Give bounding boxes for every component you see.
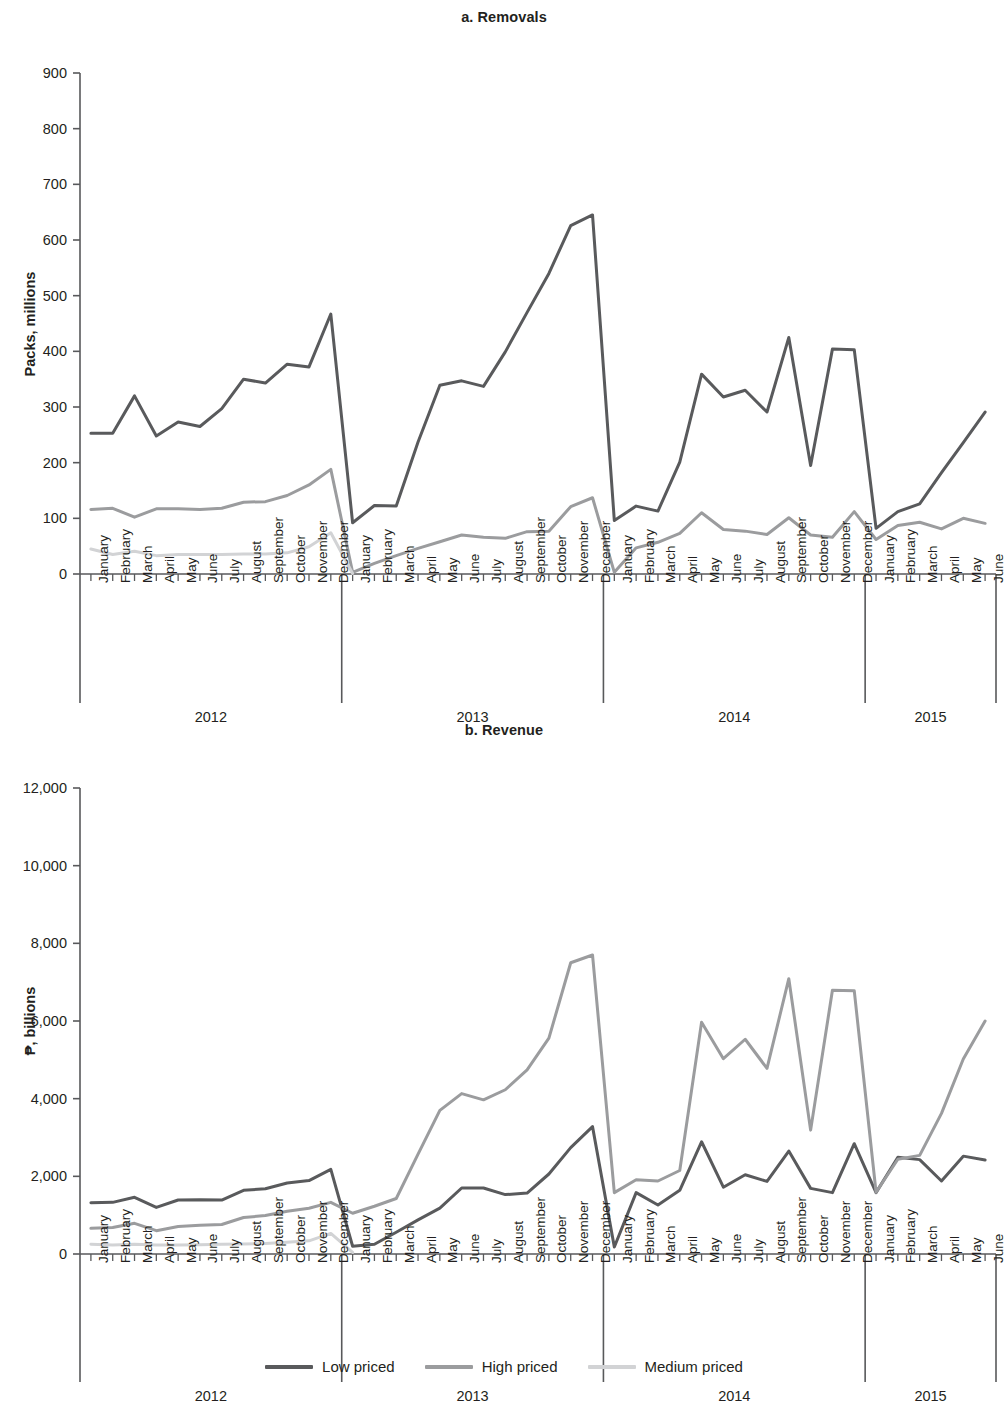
- x-axis-month-label: September: [794, 1197, 809, 1263]
- x-axis-month-label: November: [838, 1201, 853, 1263]
- x-axis-month-label: January: [620, 1215, 635, 1263]
- chart-panel-removals: a. Removals 0100200300400500600700800900…: [0, 0, 1008, 700]
- x-axis-month-label: March: [663, 545, 678, 583]
- x-axis-month-label: October: [554, 1215, 569, 1263]
- legend-swatch-medium-priced: [588, 1365, 636, 1369]
- x-axis-month-label: August: [511, 1221, 526, 1263]
- chart-a-title: a. Removals: [0, 0, 1008, 25]
- x-axis-month-label: November: [576, 521, 591, 583]
- x-axis-month-label: February: [642, 529, 657, 583]
- legend-swatch-high-priced: [425, 1365, 473, 1369]
- x-axis-month-label: February: [380, 1209, 395, 1263]
- x-axis-month-label: March: [925, 1225, 940, 1263]
- x-axis-month-label: March: [663, 1225, 678, 1263]
- x-axis-year-label: 2015: [914, 1388, 946, 1404]
- x-axis-month-label: April: [685, 556, 700, 583]
- legend-label-high-priced: High priced: [482, 1358, 558, 1375]
- x-axis-month-label: May: [707, 1237, 722, 1263]
- x-axis-month-label: March: [402, 1225, 417, 1263]
- legend-label-medium-priced: Medium priced: [645, 1358, 743, 1375]
- x-axis-month-label: November: [576, 1201, 591, 1263]
- x-axis-year-label: 2013: [456, 1388, 488, 1404]
- x-axis-month-label: February: [380, 529, 395, 583]
- x-axis-year-label: 2012: [195, 1388, 227, 1404]
- x-axis-month-label: April: [162, 1236, 177, 1263]
- x-axis-month-label: April: [947, 1236, 962, 1263]
- x-axis-month-label: March: [402, 545, 417, 583]
- x-axis-month-label: July: [751, 1239, 766, 1263]
- x-axis-month-label: March: [140, 1225, 155, 1263]
- x-axis-month-label: June: [467, 554, 482, 583]
- x-axis-month-label: January: [358, 535, 373, 583]
- x-axis-month-label: May: [707, 557, 722, 583]
- x-axis-month-label: July: [227, 1239, 242, 1263]
- x-axis-month-label: May: [184, 557, 199, 583]
- x-axis-month-label: December: [336, 1201, 351, 1263]
- x-axis-month-label: May: [445, 557, 460, 583]
- legend-label-low-priced: Low priced: [322, 1358, 395, 1375]
- x-axis-month-label: February: [642, 1209, 657, 1263]
- x-axis-month-label: November: [315, 1201, 330, 1263]
- y-axis-title: Packs, millions: [22, 271, 38, 376]
- x-axis-month-label: June: [991, 554, 1006, 583]
- x-axis-month-label: August: [773, 541, 788, 583]
- x-axis-month-label: March: [140, 545, 155, 583]
- x-axis-month-label: April: [424, 556, 439, 583]
- x-axis-month-label: April: [685, 1236, 700, 1263]
- x-axis-month-label: June: [205, 1234, 220, 1263]
- x-axis-month-label: May: [969, 1237, 984, 1263]
- x-axis-month-label: April: [162, 556, 177, 583]
- x-axis-month-label: February: [903, 529, 918, 583]
- x-axis-month-label: August: [249, 1221, 264, 1263]
- x-axis-month-label: December: [598, 1201, 613, 1263]
- x-axis-month-label: March: [925, 545, 940, 583]
- x-axis-month-label: May: [969, 557, 984, 583]
- x-axis-month-label: October: [816, 535, 831, 583]
- x-axis-month-label: November: [838, 521, 853, 583]
- x-axis-month-label: September: [794, 517, 809, 583]
- x-axis-month-label: January: [882, 1215, 897, 1263]
- x-axis-month-label: January: [358, 1215, 373, 1263]
- x-axis-month-label: January: [620, 535, 635, 583]
- x-axis-month-label: January: [96, 535, 111, 583]
- x-axis-month-label: February: [118, 529, 133, 583]
- chart-panel-revenue: b. Revenue 02,0004,0006,0008,00010,00012…: [0, 700, 1008, 1360]
- x-axis-month-label: June: [729, 1234, 744, 1263]
- chart-svg-a: [0, 61, 1008, 761]
- x-axis-month-label: July: [489, 559, 504, 583]
- x-axis-month-label: June: [467, 1234, 482, 1263]
- x-axis-month-label: May: [184, 1237, 199, 1263]
- x-axis-month-label: December: [860, 1201, 875, 1263]
- chart-svg-b: [0, 776, 1008, 1405]
- x-axis-month-label: July: [227, 559, 242, 583]
- x-axis-month-label: June: [991, 1234, 1006, 1263]
- x-axis-month-label: February: [118, 1209, 133, 1263]
- x-axis-month-label: August: [249, 541, 264, 583]
- x-axis-month-label: October: [293, 1215, 308, 1263]
- x-axis-month-label: April: [424, 1236, 439, 1263]
- x-axis-month-label: July: [489, 1239, 504, 1263]
- x-axis-month-label: September: [533, 1197, 548, 1263]
- x-axis-month-label: September: [533, 517, 548, 583]
- y-axis-title: ₱, billions: [22, 987, 38, 1055]
- x-axis-month-label: April: [947, 556, 962, 583]
- x-axis-month-label: December: [860, 521, 875, 583]
- legend-swatch-low-priced: [265, 1365, 313, 1369]
- x-axis-month-label: June: [729, 554, 744, 583]
- x-axis-month-label: February: [903, 1209, 918, 1263]
- x-axis-month-label: October: [554, 535, 569, 583]
- x-axis-year-label: 2014: [718, 1388, 750, 1404]
- x-axis-month-label: September: [271, 517, 286, 583]
- x-axis-month-label: November: [315, 521, 330, 583]
- x-axis-month-label: June: [205, 554, 220, 583]
- x-axis-month-label: October: [293, 535, 308, 583]
- chart-b-title: b. Revenue: [0, 700, 1008, 738]
- x-axis-month-label: October: [816, 1215, 831, 1263]
- legend-item-low-priced: Low priced: [265, 1358, 395, 1375]
- x-axis-month-label: July: [751, 559, 766, 583]
- x-axis-month-label: December: [336, 521, 351, 583]
- x-axis-month-label: December: [598, 521, 613, 583]
- x-axis-month-label: January: [882, 535, 897, 583]
- legend-item-medium-priced: Medium priced: [588, 1358, 743, 1375]
- x-axis-month-label: May: [445, 1237, 460, 1263]
